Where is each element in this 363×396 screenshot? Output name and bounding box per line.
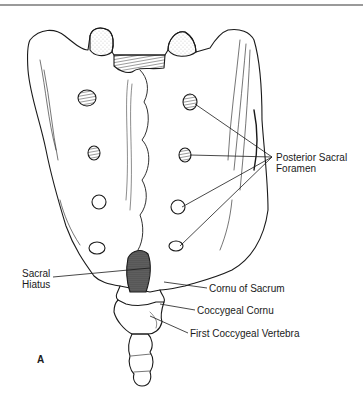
label-sacral-hiatus: Sacral Hiatus: [22, 268, 50, 290]
label-line-1: Posterior Sacral: [276, 152, 347, 163]
left-superior-articular-process: [90, 28, 113, 56]
foramen-right-2: [179, 148, 191, 162]
foramen-left-1: [78, 90, 96, 106]
label-line-2: Foramen: [276, 163, 347, 174]
first-coccygeal-vertebra: [114, 300, 164, 334]
label-line-1: Sacral: [22, 268, 50, 279]
label-coccygeal-cornu: Coccygeal Cornu: [197, 305, 274, 316]
label-first-coccygeal-vertebra: First Coccygeal Vertebra: [190, 328, 300, 339]
label-cornu-of-sacrum: Cornu of Sacrum: [209, 283, 285, 294]
foramen-left-4: [89, 242, 105, 254]
label-line-2: Hiatus: [22, 279, 50, 290]
right-superior-articular-process: [168, 32, 196, 57]
coccyx-segments: [129, 334, 153, 386]
sacral-hiatus: [127, 251, 150, 292]
foramen-right-4: [169, 241, 183, 251]
sacrum-posterior-view-drawing: [0, 0, 363, 396]
foramen-left-3: [92, 195, 106, 209]
foramen-right-3: [171, 200, 185, 214]
foramen-right-1: [183, 94, 197, 110]
leader-lines: [53, 104, 272, 333]
panel-letter: A: [37, 354, 44, 365]
label-posterior-sacral-foramen: Posterior Sacral Foramen: [276, 152, 347, 174]
foramen-left-2: [88, 146, 100, 160]
